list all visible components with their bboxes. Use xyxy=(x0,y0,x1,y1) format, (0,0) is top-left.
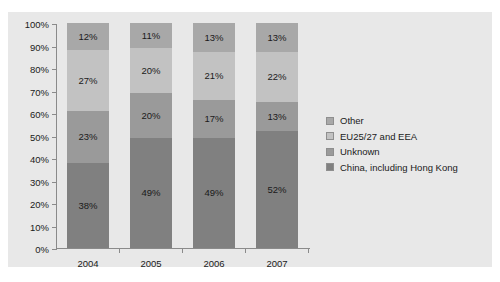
y-axis-tick-label: 10% xyxy=(30,221,49,232)
legend-swatch xyxy=(326,117,334,125)
y-axis-tick xyxy=(52,249,56,250)
y-axis-tick xyxy=(52,159,56,160)
bar-segment-value-label: 38% xyxy=(78,201,97,211)
bar-segment-value-label: 20% xyxy=(141,111,160,121)
stacked-bar[interactable]: 12%27%23%38% xyxy=(67,23,109,248)
bar-segment-value-label: 13% xyxy=(267,33,286,43)
y-axis-tick xyxy=(52,47,56,48)
legend-item[interactable]: EU25/27 and EEA xyxy=(326,129,458,145)
bar-segment-value-label: 17% xyxy=(204,114,223,124)
bar-segment-value-label: 21% xyxy=(204,71,223,81)
x-axis-tick-label: 2006 xyxy=(184,258,244,269)
x-axis-tick-label: 2004 xyxy=(58,258,118,269)
bar-segment-value-label: 52% xyxy=(267,185,286,195)
bar-segment[interactable]: 27% xyxy=(67,50,109,111)
bar-segment[interactable]: 13% xyxy=(256,23,298,52)
bar-segment[interactable]: 21% xyxy=(193,52,235,99)
y-axis-tick-label: 20% xyxy=(30,199,49,210)
x-axis-tick xyxy=(245,249,246,253)
y-axis-tick xyxy=(52,137,56,138)
bar-segment-value-label: 23% xyxy=(78,132,97,142)
bar-segment[interactable]: 38% xyxy=(67,163,109,249)
bar-segment[interactable]: 23% xyxy=(67,111,109,163)
legend-swatch xyxy=(326,148,334,156)
y-axis-line xyxy=(56,24,57,250)
bar-segment[interactable]: 13% xyxy=(256,102,298,131)
bar-segment[interactable]: 20% xyxy=(130,48,172,93)
bar-segment-value-label: 27% xyxy=(78,76,97,86)
bar-segment-value-label: 49% xyxy=(204,188,223,198)
legend-item-label: EU25/27 and EEA xyxy=(340,131,417,142)
stacked-bar[interactable]: 13%22%13%52% xyxy=(256,23,298,248)
clipped-caption-text xyxy=(0,0,500,5)
bar-segment[interactable]: 17% xyxy=(193,100,235,138)
legend-item-label: China, including Hong Kong xyxy=(340,162,458,173)
plot-area: 0%10%20%30%40%50%60%70%80%90%100% 12%27%… xyxy=(56,24,309,249)
y-axis-tick-label: 100% xyxy=(25,19,49,30)
bar-segment-value-label: 12% xyxy=(78,32,97,42)
y-axis-tick-label: 0% xyxy=(35,244,49,255)
bar-segment-value-label: 13% xyxy=(204,33,223,43)
bar-segment[interactable]: 49% xyxy=(130,138,172,248)
bar-segment-value-label: 11% xyxy=(142,31,160,41)
bar-segment[interactable]: 22% xyxy=(256,52,298,102)
y-axis-tick xyxy=(52,227,56,228)
bar-segment-value-label: 20% xyxy=(141,66,160,76)
bar-segment[interactable]: 11% xyxy=(130,23,172,48)
y-axis-tick-label: 90% xyxy=(30,41,49,52)
bar-segment-value-label: 49% xyxy=(141,188,160,198)
chart-container: 0%10%20%30%40%50%60%70%80%90%100% 12%27%… xyxy=(8,12,492,267)
y-axis-tick-label: 70% xyxy=(30,86,49,97)
bar-segment[interactable]: 20% xyxy=(130,93,172,138)
y-axis-tick xyxy=(52,182,56,183)
legend-item[interactable]: China, including Hong Kong xyxy=(326,160,458,176)
y-axis-tick xyxy=(52,24,56,25)
bar-segment[interactable]: 12% xyxy=(67,23,109,50)
bar-segment[interactable]: 49% xyxy=(193,138,235,248)
y-axis-tick-label: 30% xyxy=(30,176,49,187)
stacked-bar[interactable]: 13%21%17%49% xyxy=(193,23,235,248)
legend-item-label: Unknown xyxy=(340,146,380,157)
y-axis-tick xyxy=(52,69,56,70)
legend-item[interactable]: Unknown xyxy=(326,144,458,160)
stacked-bar[interactable]: 11%20%20%49% xyxy=(130,23,172,248)
x-axis-tick xyxy=(119,249,120,253)
legend-swatch xyxy=(326,132,334,140)
bar-segment[interactable]: 52% xyxy=(256,131,298,248)
x-axis-tick xyxy=(308,249,309,253)
bar-segment[interactable]: 13% xyxy=(193,23,235,52)
y-axis-tick xyxy=(52,204,56,205)
y-axis-tick xyxy=(52,114,56,115)
y-axis-tick-label: 80% xyxy=(30,64,49,75)
x-axis-tick-label: 2007 xyxy=(247,258,307,269)
x-axis-line xyxy=(56,248,310,249)
legend-swatch xyxy=(326,163,334,171)
x-axis-tick xyxy=(182,249,183,253)
chart-legend: OtherEU25/27 and EEAUnknownChina, includ… xyxy=(326,113,458,175)
bar-segment-value-label: 13% xyxy=(267,112,286,122)
x-axis-tick-label: 2005 xyxy=(121,258,181,269)
bar-segment-value-label: 22% xyxy=(267,72,286,82)
legend-item[interactable]: Other xyxy=(326,113,458,129)
y-axis-tick xyxy=(52,92,56,93)
legend-item-label: Other xyxy=(340,115,364,126)
y-axis-tick-label: 40% xyxy=(30,154,49,165)
y-axis-tick-label: 50% xyxy=(30,131,49,142)
y-axis-tick-label: 60% xyxy=(30,109,49,120)
